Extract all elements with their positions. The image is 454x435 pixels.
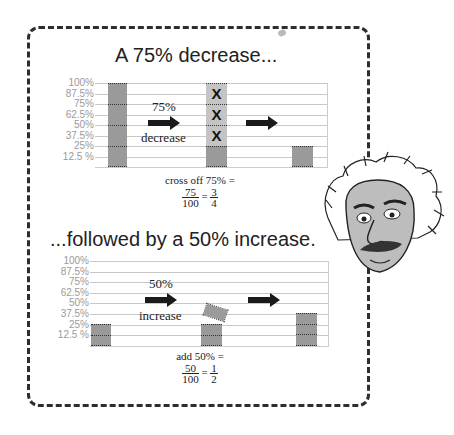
- y-label-100: 100%: [49, 256, 89, 266]
- top-bar-result: [292, 146, 313, 167]
- y-label-50: 50%: [54, 120, 94, 130]
- top-bar-crossed: X X X: [206, 83, 227, 146]
- bottom-title: ...followed by a 50% increase.: [50, 228, 316, 251]
- y-label-75: 75%: [49, 277, 89, 287]
- y-label-87-5: 87.5%: [49, 267, 89, 277]
- fraction-75-100: 75100: [182, 187, 199, 208]
- einstein-cartoon-illustration: [318, 148, 448, 298]
- y-label-75: 75%: [54, 99, 94, 109]
- fraction-1-2: 12: [210, 363, 218, 384]
- bottom-equation: add 50% = 50100 = 12: [150, 350, 250, 384]
- x-mark-icon: X: [206, 106, 227, 123]
- bottom-arrow-label-word: increase: [139, 308, 182, 324]
- top-arrow-label-word: decrease: [141, 130, 186, 146]
- y-label-37-5: 37.5%: [54, 131, 94, 141]
- right-arrow-icon: [248, 293, 280, 307]
- y-label-62-5: 62.5%: [54, 110, 94, 120]
- y-label-12-5: 12.5 %: [54, 152, 94, 162]
- top-bar-remaining: [206, 146, 227, 167]
- y-label-37-5: 37.5%: [49, 309, 89, 319]
- x-mark-icon: X: [206, 85, 227, 102]
- bottom-bar-result: [296, 313, 317, 346]
- top-bar-start: [108, 83, 127, 167]
- y-label-12-5: 12.5 %: [49, 330, 89, 340]
- fraction-3-4: 34: [210, 187, 218, 208]
- x-mark-icon: X: [206, 127, 227, 144]
- fraction-50-100: 50100: [182, 363, 199, 384]
- top-arrow-label-percent: 75%: [152, 99, 176, 115]
- y-label-50: 50%: [49, 298, 89, 308]
- top-equation: cross off 75% = 75100 = 34: [150, 174, 250, 208]
- y-label-62-5: 62.5%: [49, 288, 89, 298]
- top-title: A 75% decrease...: [115, 44, 277, 67]
- top-equation-text: cross off 75% =: [150, 174, 250, 186]
- bottom-bar-start: [91, 324, 111, 346]
- right-arrow-icon: [145, 293, 177, 307]
- y-label-100: 100%: [54, 78, 94, 88]
- y-label-87-5: 87.5%: [54, 89, 94, 99]
- y-label-25: 25%: [54, 141, 94, 151]
- bottom-arrow-label-percent: 50%: [149, 276, 173, 292]
- bottom-bar-base: [201, 324, 222, 346]
- right-arrow-icon: [246, 116, 278, 130]
- y-label-25: 25%: [49, 320, 89, 330]
- right-arrow-icon: [148, 116, 180, 130]
- bottom-equation-text: add 50% =: [150, 350, 250, 362]
